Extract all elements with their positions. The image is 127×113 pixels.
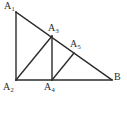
vertex-label-a1-subscript: 1	[12, 5, 15, 12]
vertex-label-a3: A3	[48, 23, 58, 33]
vertex-label-a2-subscript: 2	[11, 86, 14, 93]
vertex-label-a3-base: A	[48, 22, 55, 33]
vertex-label-a1-base: A	[4, 0, 11, 11]
vertex-label-a4: A4	[44, 82, 54, 92]
vertex-label-a5: A5	[70, 39, 80, 49]
vertex-label-a2: A2	[3, 82, 13, 92]
vertex-label-a4-base: A	[44, 81, 51, 92]
segment-group	[16, 12, 112, 80]
hypotenuse-a1-b	[16, 12, 112, 80]
figure-canvas	[0, 0, 127, 113]
segment-a4-a5	[52, 53, 74, 80]
vertex-label-a1: A1	[4, 1, 14, 11]
vertex-label-a4-subscript: 4	[52, 86, 55, 93]
vertex-label-b-base: B	[114, 71, 121, 82]
vertex-label-a2-base: A	[3, 81, 10, 92]
vertex-label-a5-base: A	[70, 38, 77, 49]
vertex-label-b: B	[114, 72, 121, 82]
vertex-label-a5-subscript: 5	[78, 43, 81, 50]
geometry-figure: A1 A3 A5 A2 A4 B	[0, 0, 127, 113]
segment-a2-a3	[16, 36, 52, 80]
vertex-label-a3-subscript: 3	[56, 27, 59, 34]
